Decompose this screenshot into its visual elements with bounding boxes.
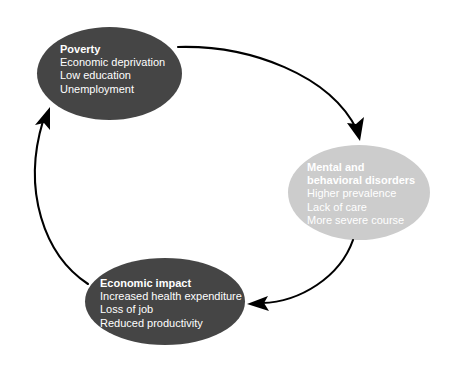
node-label-poverty: Poverty Economic deprivation Low educati… [60, 43, 165, 96]
node-item-poverty-0: Economic deprivation [60, 56, 165, 69]
node-label-mental-and-behavioral-disorders: Mental and behavioral disorders Higher p… [307, 161, 415, 227]
node-item-economic-impact-2: Reduced productivity [100, 317, 242, 330]
arrow-economic-impact-to-poverty [35, 107, 88, 284]
arrow-mental-to-economic-impact [247, 240, 353, 311]
node-item-economic-impact-1: Loss of job [100, 303, 242, 316]
node-item-mental-2: More severe course [307, 214, 415, 227]
node-item-poverty-1: Low education [60, 69, 165, 82]
node-item-poverty-2: Unemployment [60, 83, 165, 96]
cycle-diagram: Poverty Economic deprivation Low educati… [0, 0, 452, 365]
node-title-poverty: Poverty [60, 43, 165, 56]
node-item-economic-impact-0: Increased health expenditure [100, 290, 242, 303]
node-item-mental-1: Lack of care [307, 201, 415, 214]
node-title-mental-line2: behavioral disorders [307, 174, 415, 187]
node-title-economic-impact: Economic impact [100, 277, 242, 290]
arrow-poverty-to-mental [178, 47, 364, 141]
node-title-mental-line1: Mental and [307, 161, 415, 174]
node-item-mental-0: Higher prevalence [307, 187, 415, 200]
node-label-economic-impact: Economic impact Increased health expendi… [100, 277, 242, 330]
